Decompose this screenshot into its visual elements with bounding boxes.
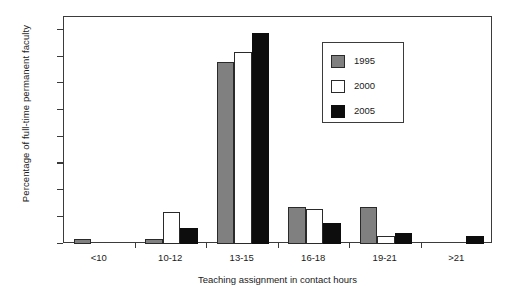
x-tick-label: 13-15 xyxy=(202,252,282,263)
legend-item-2005: 2005 xyxy=(331,104,375,118)
bar-2005->21 xyxy=(466,236,484,244)
x-tick-label: 19-21 xyxy=(345,252,425,263)
bar-2005-16-18 xyxy=(323,223,341,244)
legend-label-1995: 1995 xyxy=(354,56,375,66)
bar-1995-16-18 xyxy=(288,207,306,244)
x-tick-label: >21 xyxy=(416,252,496,263)
bar-2000-13-15 xyxy=(234,52,252,244)
x-tick-mark xyxy=(206,243,207,248)
legend-label-2000: 2000 xyxy=(354,81,375,91)
legend-swatch-2000 xyxy=(331,80,345,93)
bar-2000-10-12 xyxy=(163,212,181,244)
bar-1995-<10 xyxy=(74,239,92,244)
legend-swatch-1995 xyxy=(331,55,345,68)
legend-label-2005: 2005 xyxy=(354,106,375,116)
legend-item-2000: 2000 xyxy=(331,79,375,93)
bar-2005-10-12 xyxy=(180,228,198,244)
x-tick-mark xyxy=(349,243,350,248)
plot-area xyxy=(63,16,492,243)
chart-legend: 199520002005 xyxy=(322,42,404,123)
bar-2000-16-18 xyxy=(306,209,324,244)
bar-1995-10-12 xyxy=(145,239,163,244)
bar-1995-13-15 xyxy=(217,62,235,244)
x-tick-label: <10 xyxy=(59,252,139,263)
x-tick-mark xyxy=(421,243,422,248)
bar-2005-13-15 xyxy=(252,33,270,244)
bar-2000-19-21 xyxy=(377,236,395,244)
x-tick-mark xyxy=(135,243,136,248)
bar-2005-19-21 xyxy=(395,233,413,244)
y-axis-title: Percentage of full-time permanent facult… xyxy=(20,0,31,239)
x-tick-label: 16-18 xyxy=(273,252,353,263)
x-tick-label: 10-12 xyxy=(130,252,210,263)
bar-chart-figure: Percentage of full-time permanent facult… xyxy=(0,0,516,295)
legend-swatch-2005 xyxy=(331,105,345,118)
bar-1995-19-21 xyxy=(360,207,378,244)
x-tick-mark xyxy=(278,243,279,248)
legend-item-1995: 1995 xyxy=(331,54,375,68)
x-axis-title: Teaching assignment in contact hours xyxy=(63,274,492,285)
